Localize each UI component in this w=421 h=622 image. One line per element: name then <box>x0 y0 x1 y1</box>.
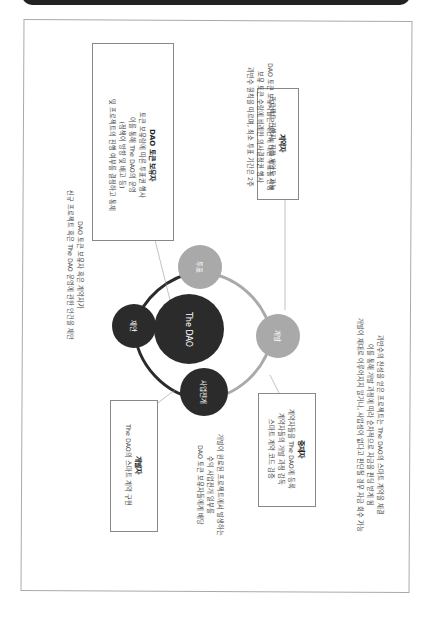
token-holder-text: DAO 토큰 보유자 토큰 보유량에 따른 투표권 행사 이를 통해 The D… <box>107 65 157 245</box>
center-node: The DAO <box>154 294 224 364</box>
annotation-propose: DAO 토큰 보유자 혹은 계약자가 신규 프로젝트 혹은 The DAO 운영… <box>65 165 85 365</box>
center-label: The DAO <box>184 311 193 346</box>
annotation-vote: DAO 토큰 보유자들은 제안에 대한 투표를 진행 보유 토큰 수량에 비례한… <box>245 27 275 227</box>
node-propose: 제안 <box>112 304 156 348</box>
curator-text: 중재자 계약자들을 The DAO에 등록 계약자들의 개발 과정 감독 스마트… <box>266 389 306 509</box>
annotation-develop: 과반수의 찬성을 얻은 프로젝트는 The DAO의 스마트 계약을 체결 이를… <box>355 285 385 565</box>
annotation-business: 개발이 완료된 프로젝트에서 발생하는 수익 사업전개 일부를 DAO 토큰 보… <box>195 415 225 555</box>
node-vote: 투표 <box>178 245 222 289</box>
node-business: 사업전개 <box>180 368 228 416</box>
node-develop: 개발 <box>256 314 300 358</box>
developer-text: 개발자 The DAO의 스마트 계약 구현 <box>123 405 143 525</box>
